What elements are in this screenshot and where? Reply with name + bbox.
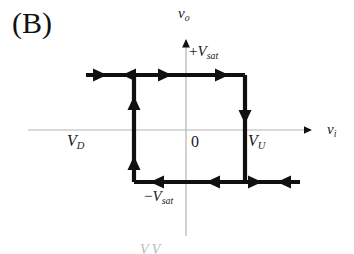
label-vsat-positive: +Vsat	[189, 44, 218, 61]
arrow-bottom-left-1	[150, 176, 164, 189]
vsat-negative-main: V	[152, 188, 161, 204]
vsat-positive-sub: sat	[207, 50, 219, 61]
direction-arrowheads	[93, 69, 291, 189]
arrow-bottom-left-3	[277, 176, 291, 189]
axis-label-y-main: v	[178, 5, 185, 21]
axis-label-x-sub: i	[334, 128, 337, 139]
arrow-left-up-1	[128, 96, 141, 110]
clipped-bottom-caption: V V	[140, 243, 160, 254]
figure-canvas	[0, 0, 354, 254]
axis-label-y: vo	[178, 6, 190, 23]
arrow-top-left-1	[122, 69, 136, 82]
hysteresis-loop	[86, 75, 300, 182]
axis-label-x-main: v	[327, 121, 334, 137]
arrow-bottom-right-1	[248, 176, 262, 189]
axis-label-y-sub: o	[185, 12, 190, 23]
origin-label: 0	[191, 134, 199, 150]
arrow-right-down	[239, 110, 252, 124]
arrow-bottom-left-2	[206, 176, 220, 189]
panel-label: (B)	[12, 8, 52, 38]
label-vu: VU	[248, 133, 265, 152]
vsat-negative-sub: sat	[162, 195, 174, 206]
vsat-positive-main: V	[197, 43, 206, 59]
axis-label-x: vi	[327, 122, 336, 139]
label-vd: VD	[67, 133, 84, 152]
arrow-top-right-1	[93, 69, 107, 82]
vd-main: V	[67, 132, 77, 149]
arrow-left-up-2	[128, 156, 141, 170]
vu-main: V	[248, 132, 258, 149]
label-vsat-negative: −Vsat	[144, 189, 173, 206]
vd-sub: D	[77, 140, 85, 151]
vu-sub: U	[258, 140, 266, 151]
arrow-top-right-2	[158, 69, 172, 82]
hysteresis-figure: (B) vo vi +Vsat −Vsat VD VU 0 V V	[0, 0, 354, 254]
arrow-top-right-3	[215, 69, 229, 82]
